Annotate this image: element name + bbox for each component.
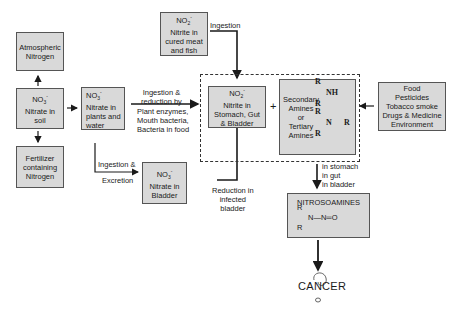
reduction-bladder-label: Reduction in infected bladder <box>212 186 254 213</box>
nitrite-meat-line2: cured meat <box>165 37 203 46</box>
nitrite-formula: NO2- <box>176 13 192 28</box>
sources-line3: Tobacco smoke <box>386 102 438 111</box>
ingestion-excretion-label-bottom: Excretion <box>102 176 133 185</box>
nitrosamine-r-top: R <box>297 203 302 212</box>
nitrite-stomach-line3: & Bladder <box>221 119 254 128</box>
nitrite-stomach-line1: Nitrite in <box>223 101 251 110</box>
nitrate-plants-line2: plants and <box>86 112 121 121</box>
nitrate-plants-line1: Nitrate in <box>86 103 116 112</box>
ingestion-label: Ingestion <box>210 21 240 30</box>
amines-box: Secondary Amines or Tertiary Amines <box>279 79 356 155</box>
amine-nr: R <box>344 118 350 127</box>
ingestion-reduction-label-top: Ingestion & reduction by <box>141 88 182 106</box>
atmospheric-nitrogen-line1: Atmospheric <box>19 43 61 52</box>
sources-line5: Environment <box>391 120 433 129</box>
nitrite-in-stomach-box: NO2- Nitrite in Stomach, Gut & Bladder <box>208 86 266 128</box>
amine-nh: NH <box>326 88 338 97</box>
amines-line3: or <box>283 113 319 122</box>
nitrate-formula: NO3- <box>86 88 102 103</box>
nitrate-in-soil-box: NO3- Nitrate in soil <box>16 88 64 129</box>
atmospheric-nitrogen-box: Atmospheric Nitrogen <box>16 32 64 71</box>
nitrite-in-cured-meat-box: NO2- Nitrite in cured meat and fish <box>160 12 208 56</box>
nitrate-plants-line3: water <box>86 121 104 130</box>
ingestion-reduction-label-bottom: Plant enzymes, Mouth bacteria, Bacteria … <box>137 107 189 134</box>
sources-line2: Pesticides <box>395 93 429 102</box>
nitrate-formula: NO3- <box>157 167 173 182</box>
amines-line2: Amines <box>283 104 319 113</box>
nitrate-in-plants-box: NO3- Nitrate in plants and water <box>81 87 125 130</box>
nitrosamine-r-bottom: R <box>297 223 302 232</box>
sources-line1: Food <box>403 84 420 93</box>
amine-r-bottom2: R <box>315 129 321 138</box>
nitrosamine-chain: N—N═O <box>308 213 337 222</box>
sources-box: Food Pesticides Tobacco smoke Drugs & Me… <box>378 82 446 131</box>
sources-line4: Drugs & Medicine <box>382 111 441 120</box>
amines-line1: Secondary <box>283 95 319 104</box>
nitrate-formula: NO3- <box>32 92 48 107</box>
nitrate-soil-line1: Nitrate in <box>25 107 55 116</box>
cancer-label: CANCER <box>298 280 346 292</box>
fertilizer-line3: Nitrogen <box>26 172 54 181</box>
nitrate-bladder-line1: Nitrate in <box>149 182 179 191</box>
ingestion-excretion-label-top: Ingestion & <box>98 160 136 169</box>
fertilizer-line2: containing <box>23 163 57 172</box>
fertilizer-box: Fertilizer containing Nitrogen <box>16 146 64 188</box>
nitrate-in-bladder-box: NO3- Nitrate in Bladder <box>142 162 187 204</box>
amines-line4: Tertiary <box>283 122 319 131</box>
nitrite-meat-line3: and fish <box>171 46 197 55</box>
nitrite-meat-line1: Nitrite in <box>170 28 198 37</box>
amine-r-top2: R <box>315 107 321 116</box>
atmospheric-nitrogen-line2: Nitrogen <box>26 52 54 61</box>
amines-line5: Amines <box>283 131 319 140</box>
nitrate-bladder-line2: Bladder <box>152 191 178 200</box>
nitrite-formula: NO2- <box>229 86 245 101</box>
fertilizer-line1: Fertilizer <box>26 154 55 163</box>
nitrite-stomach-line2: Stomach, Gut <box>214 110 260 119</box>
plus-sign: + <box>270 100 276 112</box>
nitrate-soil-line2: soil <box>34 116 45 125</box>
amine-n: N <box>326 118 332 127</box>
amine-r-top: R <box>315 77 321 86</box>
in-stomach-label: in stomach in gut in bladder <box>322 162 358 189</box>
nitrosamines-title: NITROSOAMINES <box>297 198 360 207</box>
